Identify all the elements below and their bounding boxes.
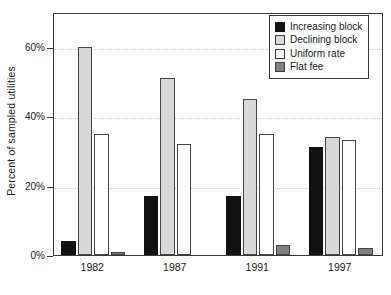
gridline-40%	[54, 118, 382, 119]
bar	[243, 99, 258, 255]
bar	[226, 196, 241, 255]
bar	[111, 252, 126, 255]
y-axis-ticks: 0%20%40%60%	[0, 13, 53, 256]
bar	[177, 144, 192, 255]
chart-legend: Increasing blockDeclining blockUniform r…	[269, 15, 369, 79]
x-tick-label: 1987	[163, 261, 186, 273]
legend-item: Flat fee	[275, 61, 362, 75]
bar	[325, 137, 340, 255]
x-tick-label: 1991	[246, 261, 269, 273]
bar	[94, 134, 109, 256]
legend-item: Increasing block	[275, 20, 362, 34]
bar-chart: Percent of sampled utilities 0%20%40%60%…	[0, 0, 391, 295]
bar	[309, 147, 324, 255]
legend-item: Declining block	[275, 34, 362, 48]
legend-label: Uniform rate	[290, 49, 345, 59]
legend-item: Uniform rate	[275, 47, 362, 61]
bar	[144, 196, 159, 255]
legend-label: Flat fee	[290, 62, 323, 72]
bar	[160, 78, 175, 255]
y-tick-label: 40%	[9, 112, 45, 122]
x-tick-label: 1982	[81, 261, 104, 273]
legend-label: Increasing block	[290, 22, 362, 32]
bar	[78, 47, 93, 255]
legend-swatch-icon	[275, 49, 285, 59]
bar	[276, 245, 291, 255]
bar	[358, 248, 373, 255]
y-tick-label: 20%	[9, 182, 45, 192]
legend-label: Declining block	[290, 35, 357, 45]
legend-swatch-icon	[275, 62, 285, 72]
legend-swatch-icon	[275, 22, 285, 32]
y-tick-label: 0%	[9, 251, 45, 261]
bar	[259, 134, 274, 256]
y-tick-label: 60%	[9, 43, 45, 53]
y-tick-mark	[47, 256, 53, 257]
x-axis-ticks: 1982198719911997	[53, 261, 383, 281]
bar	[61, 241, 76, 255]
x-tick-label: 1997	[328, 261, 351, 273]
legend-swatch-icon	[275, 35, 285, 45]
bar	[342, 140, 357, 255]
